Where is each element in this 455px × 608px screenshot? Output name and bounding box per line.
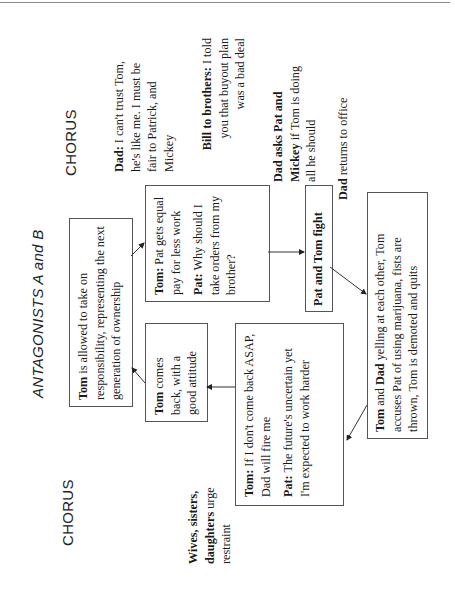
speaker-dad-returns: Dad — [336, 178, 350, 200]
chorus-dad-asks: Dad asks Pat and Mickey if Tom is doing … — [270, 64, 320, 182]
tom-allowed-text: is allowed to take on responsibility, re… — [76, 226, 123, 400]
box-tom-dad-yelling: Tom and Dad yelling at each other, Tom a… — [367, 192, 428, 439]
speaker-bill: Bill to brothers: — [200, 67, 214, 150]
chorus-bill-quote: Bill to brothers: I told you that buyout… — [199, 38, 249, 156]
speaker-tom: Tom — [152, 392, 166, 415]
box-pat-gets: Tom: Pat gets equal pay for less work Pa… — [145, 185, 270, 302]
chorus-left-heading: CHORUS — [59, 466, 77, 546]
box-pat-tom-fight: Pat and Tom fight — [305, 185, 333, 312]
chorus-dad-quote: Dad: I can't trust Tom, he's like me. I … — [111, 52, 177, 172]
speaker-tom: Tom — [76, 377, 90, 400]
pat-tom-fight-label: Pat and Tom fight — [311, 212, 325, 306]
chorus-wives: Wives, sisters, daughters urge restraint — [185, 468, 235, 564]
speaker-tom: Tom — [373, 409, 387, 432]
chorus-dad-returns: Dad returns to office — [335, 70, 352, 200]
speaker-dad: Dad — [373, 363, 387, 385]
speaker-tom: Tom: — [242, 470, 256, 497]
dad-returns-text: returns to office — [336, 98, 350, 179]
pat-future-text: The future's uncertain yet I'm expected … — [281, 348, 312, 497]
box-tom-comes-back: Tom comes back, with a good attitude — [145, 323, 208, 422]
antagonists-and: and — [29, 244, 46, 270]
and-text: and — [373, 385, 387, 409]
speaker-pat: Pat: — [191, 273, 205, 295]
antagonists-title: ANTAGONISTS A and B — [29, 223, 46, 398]
speaker-tom: Tom: — [152, 268, 166, 295]
speaker-dad: Dad: — [112, 146, 126, 172]
antagonists-main: ANTAGONISTS A — [29, 270, 46, 398]
arrow-comesback-to-allowed — [132, 368, 145, 383]
box-tom-allowed: Tom is allowed to take on responsibility… — [69, 218, 133, 407]
chorus-right-heading: CHORUS — [62, 96, 80, 176]
antagonists-b: B — [29, 229, 46, 244]
arrow-yelling-to-tomif — [347, 405, 367, 440]
box-tom-if: Tom: If I don't come back ASAP, Dad will… — [235, 323, 344, 506]
speaker-pat: Pat: — [281, 475, 295, 497]
top-rule — [0, 2, 450, 3]
arrow-fight-to-yelling — [330, 267, 366, 294]
